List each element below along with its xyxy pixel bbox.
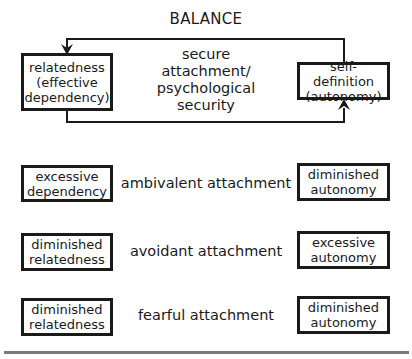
relatedness-box: relatedness (effective dependency) [21,53,113,111]
loop-bottom-left-rise [66,109,68,123]
loop-bottom-right-rise [343,108,345,123]
box-line1: diminished [31,237,102,252]
relatedness-line1: relatedness [29,60,105,75]
self-definition-box: self-definition (autonomy) [297,62,390,100]
self-definition-line2: (autonomy) [306,89,382,104]
box-line2: relatedness [29,317,105,332]
excessive-dependency-box: excessive dependency [21,165,113,202]
box-line2: relatedness [29,252,105,267]
box-line1: diminished [31,302,102,317]
relatedness-line2: (effective [36,75,98,90]
box-line2: autonomy [311,182,377,197]
box-line2: dependency [27,184,107,199]
diminished-relatedness-box: diminished relatedness [21,298,113,336]
avoidant-attachment-label: avoidant attachment [120,243,292,260]
diminished-autonomy-box: diminished autonomy [297,163,390,201]
diminished-relatedness-box: diminished relatedness [21,233,113,271]
self-definition-line1: self-definition [300,59,387,89]
diagram-title: BALANCE [0,10,412,28]
box-line1: excessive [35,169,98,184]
secure-line2: attachment/ [146,63,266,80]
secure-attachment-label: secure attachment/ psychological securit… [146,46,266,114]
bottom-divider [4,351,409,354]
secure-line1: secure [146,46,266,63]
box-line1: excessive [312,235,375,250]
loop-bottom-line [66,121,345,123]
fearful-attachment-label: fearful attachment [120,307,292,324]
box-line2: autonomy [311,250,377,265]
loop-top-line [66,38,345,40]
diminished-autonomy-box: diminished autonomy [297,296,390,334]
relatedness-line3: dependency) [24,90,109,105]
box-line1: diminished [308,167,379,182]
excessive-autonomy-box: excessive autonomy [297,231,390,269]
box-line2: autonomy [311,315,377,330]
box-line1: diminished [308,300,379,315]
secure-line3: psychological [146,80,266,97]
secure-line4: security [146,97,266,114]
ambivalent-attachment-label: ambivalent attachment [120,175,292,192]
